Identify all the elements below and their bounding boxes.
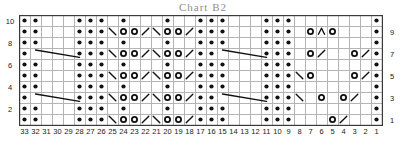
- column-number-2: 2: [360, 127, 371, 136]
- knitting-chart-grid: [19, 15, 383, 126]
- column-number-5: 5: [327, 127, 338, 136]
- column-number-27: 27: [85, 127, 96, 136]
- column-number-7: 7: [305, 127, 316, 136]
- chart-b2-page: Chart B2 108642 97531 333231302928272625…: [0, 0, 406, 145]
- column-number-16: 16: [206, 127, 217, 136]
- column-number-24: 24: [118, 127, 129, 136]
- column-number-8: 8: [294, 127, 305, 136]
- row-number-6: 6: [3, 61, 17, 70]
- column-number-1: 1: [371, 127, 382, 136]
- column-number-13: 13: [239, 127, 250, 136]
- column-number-26: 26: [96, 127, 107, 136]
- column-number-25: 25: [107, 127, 118, 136]
- row-number-9: 9: [385, 28, 399, 37]
- column-number-18: 18: [184, 127, 195, 136]
- column-number-31: 31: [41, 127, 52, 136]
- column-number-3: 3: [349, 127, 360, 136]
- row-number-1: 1: [385, 116, 399, 125]
- chart-svg: [19, 15, 383, 126]
- column-number-14: 14: [228, 127, 239, 136]
- page-title: Chart B2: [0, 1, 406, 13]
- column-number-6: 6: [316, 127, 327, 136]
- column-number-32: 32: [30, 127, 41, 136]
- column-number-4: 4: [338, 127, 349, 136]
- column-number-22: 22: [140, 127, 151, 136]
- column-number-11: 11: [261, 127, 272, 136]
- column-number-9: 9: [283, 127, 294, 136]
- column-number-10: 10: [272, 127, 283, 136]
- column-number-20: 20: [162, 127, 173, 136]
- row-number-4: 4: [3, 83, 17, 92]
- row-number-7: 7: [385, 50, 399, 59]
- row-number-10: 10: [3, 17, 17, 26]
- row-number-8: 8: [3, 39, 17, 48]
- column-number-33: 33: [19, 127, 30, 136]
- column-number-15: 15: [217, 127, 228, 136]
- row-number-3: 3: [385, 94, 399, 103]
- column-number-21: 21: [151, 127, 162, 136]
- column-number-19: 19: [173, 127, 184, 136]
- column-number-17: 17: [195, 127, 206, 136]
- column-number-28: 28: [74, 127, 85, 136]
- column-number-30: 30: [52, 127, 63, 136]
- row-number-5: 5: [385, 72, 399, 81]
- column-number-23: 23: [129, 127, 140, 136]
- row-number-2: 2: [3, 105, 17, 114]
- column-number-12: 12: [250, 127, 261, 136]
- column-number-29: 29: [63, 127, 74, 136]
